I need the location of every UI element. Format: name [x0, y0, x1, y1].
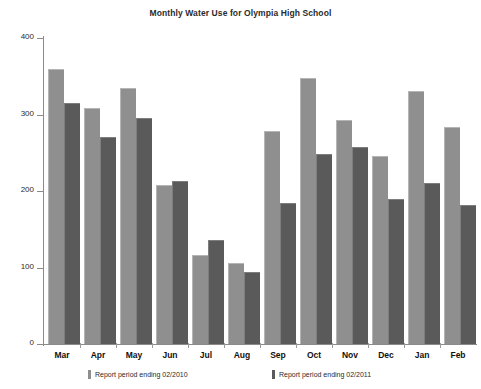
x-tick-mark — [260, 343, 261, 348]
bar-may-series2 — [136, 118, 152, 344]
x-tick-mark — [296, 343, 297, 348]
legend-item-2: Report period ending 02/2011 — [272, 370, 371, 379]
bar-dec-series1 — [372, 156, 388, 344]
x-label-feb: Feb — [436, 350, 480, 360]
y-axis-title: CCF — [0, 213, 1, 228]
bar-nov-series1 — [336, 120, 352, 344]
y-tick-mark — [37, 38, 44, 39]
bar-jan-series1 — [408, 91, 424, 344]
bar-oct-series1 — [300, 78, 316, 344]
chart-title: Monthly Water Use for Olympia High Schoo… — [0, 8, 481, 18]
x-tick-mark — [440, 343, 441, 348]
bar-feb-series2 — [460, 205, 476, 344]
y-tick-mark — [37, 191, 44, 192]
y-tick-mark — [37, 115, 44, 116]
bar-dec-series2 — [388, 199, 404, 344]
bar-apr-series1 — [84, 108, 100, 344]
bar-jul-series2 — [208, 240, 224, 344]
legend-swatch-icon — [88, 370, 91, 379]
y-tick-mark — [37, 268, 44, 269]
y-tick-300: 300 — [0, 115, 44, 116]
x-tick-mark — [368, 343, 369, 348]
y-tick-400: 400 — [0, 38, 44, 39]
bar-jul-series1 — [192, 255, 208, 344]
bar-jan-series2 — [424, 183, 440, 344]
legend-label: Report period ending 02/2011 — [279, 371, 371, 378]
y-tick-label: 0 — [30, 338, 34, 347]
x-tick-mark — [188, 343, 189, 348]
y-tick-label: 100 — [21, 262, 34, 271]
bar-feb-series1 — [444, 127, 460, 344]
y-tick-200: 200 — [0, 191, 44, 192]
x-tick-mark — [404, 343, 405, 348]
bar-nov-series2 — [352, 147, 368, 344]
y-tick-label: 400 — [21, 32, 34, 41]
legend-item-1: Report period ending 02/2010 — [88, 370, 188, 379]
legend-label: Report period ending 02/2010 — [95, 371, 188, 378]
bar-jun-series1 — [156, 185, 172, 344]
y-tick-mark — [37, 344, 44, 345]
x-tick-mark — [80, 343, 81, 348]
y-tick-label: 200 — [21, 185, 34, 194]
bar-oct-series2 — [316, 154, 332, 344]
x-tick-mark — [332, 343, 333, 348]
bar-apr-series2 — [100, 137, 116, 344]
x-tick-mark — [116, 343, 117, 348]
y-tick-label: 300 — [21, 109, 34, 118]
y-tick-0: 0 — [0, 344, 44, 345]
bar-may-series1 — [120, 88, 136, 345]
plot-area — [44, 38, 476, 344]
bar-sep-series1 — [264, 131, 280, 344]
bar-jun-series2 — [172, 181, 188, 344]
x-tick-mark — [224, 343, 225, 348]
bar-aug-series2 — [244, 272, 260, 344]
bar-mar-series1 — [48, 69, 64, 344]
x-tick-mark — [152, 343, 153, 348]
y-tick-100: 100 — [0, 268, 44, 269]
bar-aug-series1 — [228, 263, 244, 344]
bar-sep-series2 — [280, 203, 296, 344]
bar-mar-series2 — [64, 103, 80, 344]
bar-chart: Monthly Water Use for Olympia High Schoo… — [0, 0, 481, 389]
chart-legend: Report period ending 02/2010Report perio… — [0, 370, 481, 384]
legend-swatch-icon — [272, 370, 275, 379]
